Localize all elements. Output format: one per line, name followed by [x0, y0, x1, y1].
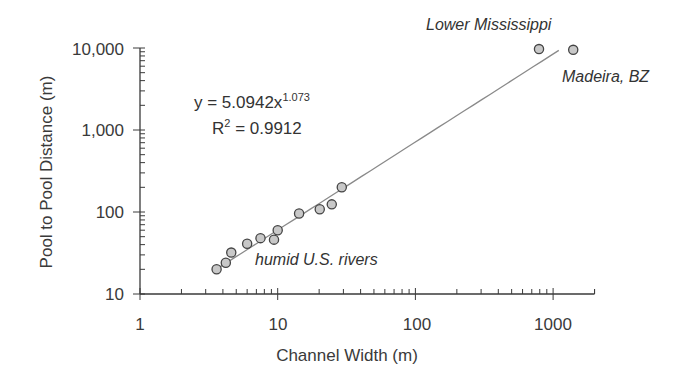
x-axis-title: Channel Width (m) — [276, 346, 418, 365]
data-point — [227, 248, 236, 257]
data-point — [337, 183, 346, 192]
data-point — [315, 205, 324, 214]
data-point — [212, 265, 221, 274]
data-point — [256, 234, 265, 243]
r-squared: R2 = 0.9912 — [212, 117, 302, 138]
equation-exponent: 1.073 — [282, 91, 310, 103]
trend-equation: y = 5.0942x1.073 — [194, 91, 310, 112]
power-trendline — [217, 50, 559, 269]
y-tick-label-10000: 10,000 — [72, 40, 124, 59]
equation-main: y = 5.0942x — [194, 93, 283, 112]
data-point — [327, 200, 336, 209]
annotation-humid-rivers: humid U.S. rivers — [255, 251, 378, 268]
data-point — [273, 226, 282, 235]
r2-prefix: R — [212, 119, 224, 138]
y-axis-title: Pool to Pool Distance (m) — [37, 76, 56, 269]
x-tick-label-1000: 1000 — [534, 315, 572, 334]
annotation-madeira: Madeira, BZ — [562, 68, 650, 85]
y-tick-label-1000: 1,000 — [81, 121, 124, 140]
x-tick-label-1: 1 — [135, 315, 144, 334]
y-tick-label-10: 10 — [105, 285, 124, 304]
trendline — [217, 50, 559, 269]
annotation-lower-mississippi: Lower Mississippi — [426, 16, 552, 33]
data-point — [269, 235, 278, 244]
scatter-chart: 1 10 100 1000 10 100 1,000 10,000 Channe… — [0, 0, 686, 384]
data-point — [534, 44, 543, 53]
x-tick-label-100: 100 — [403, 315, 431, 334]
data-point — [294, 209, 303, 218]
data-point — [569, 45, 578, 54]
x-tick-label-10: 10 — [269, 315, 288, 334]
data-point — [221, 258, 230, 267]
data-point — [243, 239, 252, 248]
y-tick-label-100: 100 — [96, 203, 124, 222]
r2-value: = 0.9912 — [230, 119, 301, 138]
data-points — [212, 44, 578, 273]
